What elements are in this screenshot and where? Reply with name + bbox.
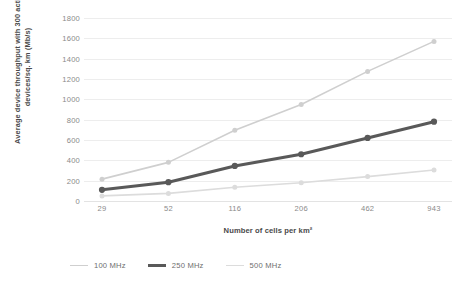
x-axis-tick-label: 943 bbox=[409, 204, 459, 213]
legend-label: 250 MHz bbox=[172, 261, 204, 270]
series-250-mhz bbox=[99, 119, 437, 193]
data-point bbox=[431, 119, 437, 125]
x-axis-tick-label: 116 bbox=[210, 204, 260, 213]
y-axis-tick-label: 1400 bbox=[46, 54, 80, 63]
x-axis-tick-label: 206 bbox=[276, 204, 326, 213]
gridline bbox=[84, 201, 452, 202]
line-chart: Average device throughput with 300 activ… bbox=[0, 0, 463, 283]
series-layer bbox=[84, 18, 452, 201]
chart-legend: 100 MHz250 MHz500 MHz bbox=[70, 256, 400, 274]
y-axis-title: Average device throughput with 300 activ… bbox=[13, 0, 43, 147]
data-point bbox=[299, 102, 304, 107]
x-axis-tick-labels: 2952116206462943 bbox=[84, 204, 452, 218]
y-axis-tick-labels: 020040060080010001200140016001800 bbox=[44, 18, 80, 201]
legend-item[interactable]: 100 MHz bbox=[70, 261, 126, 270]
y-axis-tick-label: 800 bbox=[46, 115, 80, 124]
data-point bbox=[232, 185, 237, 190]
data-point bbox=[432, 39, 437, 44]
legend-label: 500 MHz bbox=[250, 261, 282, 270]
y-axis-tick-label: 1600 bbox=[46, 34, 80, 43]
x-axis-tick-label: 52 bbox=[143, 204, 193, 213]
y-axis-tick-label: 1800 bbox=[46, 14, 80, 23]
data-point bbox=[99, 187, 105, 193]
data-point bbox=[100, 177, 105, 182]
x-axis-tick-label: 29 bbox=[77, 204, 127, 213]
legend-item[interactable]: 500 MHz bbox=[226, 261, 282, 270]
data-point bbox=[232, 163, 238, 169]
data-point bbox=[166, 160, 171, 165]
legend-line-icon bbox=[148, 264, 166, 267]
data-point bbox=[165, 179, 171, 185]
data-point bbox=[365, 174, 370, 179]
data-point bbox=[232, 128, 237, 133]
legend-label: 100 MHz bbox=[94, 261, 126, 270]
y-axis-tick-label: 200 bbox=[46, 176, 80, 185]
y-axis-tick-label: 1200 bbox=[46, 75, 80, 84]
y-axis-tick-label: 600 bbox=[46, 136, 80, 145]
y-axis-tick-label: 0 bbox=[46, 197, 80, 206]
x-axis-title: Number of cells per km² bbox=[84, 226, 452, 235]
x-axis-tick-label: 462 bbox=[343, 204, 393, 213]
series-line bbox=[102, 41, 434, 179]
legend-line-icon bbox=[70, 265, 88, 266]
legend-line-icon bbox=[226, 265, 244, 266]
data-point bbox=[432, 167, 437, 172]
plot-area bbox=[84, 18, 452, 201]
data-point bbox=[166, 191, 171, 196]
data-point bbox=[100, 193, 105, 198]
series-line bbox=[102, 122, 434, 190]
data-point bbox=[298, 151, 304, 157]
data-point bbox=[365, 135, 371, 141]
data-point bbox=[365, 69, 370, 74]
data-point bbox=[299, 180, 304, 185]
y-axis-tick-label: 400 bbox=[46, 156, 80, 165]
legend-item[interactable]: 250 MHz bbox=[148, 261, 204, 270]
y-axis-tick-label: 1000 bbox=[46, 95, 80, 104]
